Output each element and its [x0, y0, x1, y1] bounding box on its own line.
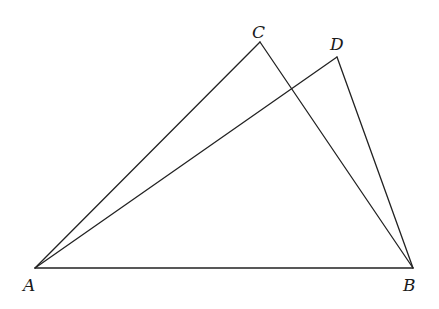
point-label-a: A	[21, 275, 35, 295]
point-label-b: B	[402, 275, 416, 295]
segment-db	[337, 57, 413, 268]
geometry-diagram: A B C D	[0, 0, 439, 309]
point-label-d: D	[329, 34, 344, 54]
segment-ac	[35, 42, 260, 268]
segment-cb	[260, 42, 413, 268]
segment-ad	[35, 57, 337, 268]
point-label-c: C	[252, 22, 265, 42]
